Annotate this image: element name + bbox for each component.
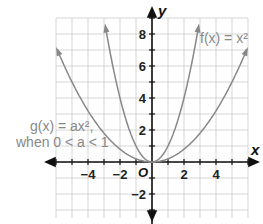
svg-text:8: 8 [139,27,146,42]
svg-text:6: 6 [139,59,146,74]
svg-text:−2: −2 [131,187,146,202]
svg-text:−4: −4 [81,167,97,182]
svg-text:4: 4 [212,167,220,182]
origin-label: O [138,165,148,180]
svg-text:2: 2 [139,123,146,138]
x-axis-label: x [250,141,260,158]
f-label: f(x) = x² [200,30,248,46]
g-label-line1: g(x) = ax², [30,118,93,134]
y-axis-label: y [157,2,167,19]
svg-text:4: 4 [139,91,147,106]
svg-text:−2: −2 [113,167,128,182]
g-label-line2: when 0 < a < 1 [16,134,109,150]
svg-text:2: 2 [180,167,187,182]
